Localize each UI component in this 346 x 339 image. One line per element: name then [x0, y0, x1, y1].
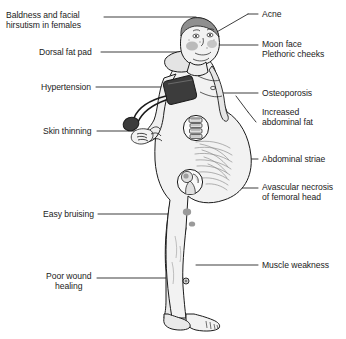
- femoral-head-inset: [177, 169, 202, 195]
- label-muscle-weakness: Muscle weakness: [262, 261, 329, 271]
- bruise-spot: [189, 221, 195, 226]
- cheek-right: [207, 40, 217, 48]
- ulcer-marker: [183, 278, 189, 284]
- label-poor-wound-healing: Poor wound healing: [46, 272, 91, 291]
- label-osteoporosis: Osteoporosis: [262, 89, 312, 99]
- label-hypertension: Hypertension: [41, 83, 91, 93]
- bruise-spot: [183, 209, 191, 216]
- label-baldness-hirsutism: Baldness and facial hirsutism in females: [6, 11, 81, 30]
- label-avascular-necrosis-femoral-head: Avascular necrosis of femoral head: [262, 183, 333, 202]
- foot-near: [186, 314, 220, 331]
- vertebra-inset: [183, 115, 208, 140]
- label-increased-abdominal-fat: Increased abdominal fat: [262, 108, 313, 127]
- cheek-left: [186, 41, 198, 50]
- label-easy-bruising: Easy bruising: [43, 210, 94, 220]
- label-dorsal-fat-pad: Dorsal fat pad: [39, 48, 92, 58]
- leader-acne-angle: [215, 14, 248, 33]
- label-moon-face-plethoric-cheeks: Moon face Plethoric cheeks: [262, 40, 324, 59]
- label-abdominal-striae: Abdominal striae: [262, 155, 325, 165]
- label-acne: Acne: [262, 10, 281, 20]
- label-skin-thinning: Skin thinning: [43, 127, 92, 137]
- feet: [164, 314, 220, 331]
- cushings-syndrome-diagram: Baldness and facial hirsutism in females…: [0, 0, 346, 339]
- leader-abdominal-fat-b: [236, 96, 248, 112]
- leader-abdominal-fat: [248, 112, 256, 122]
